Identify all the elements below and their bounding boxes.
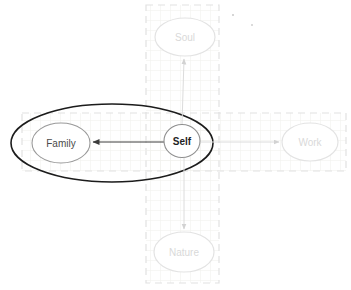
scan-speck <box>251 24 253 26</box>
node-nature[interactable]: Nature <box>154 232 214 272</box>
diagram-canvas: Soul Work Nature Family Self <box>0 0 351 290</box>
scan-speck <box>232 14 234 16</box>
node-family[interactable]: Family <box>32 123 90 163</box>
nature-label: Nature <box>169 247 199 258</box>
node-self[interactable]: Self <box>164 125 200 158</box>
node-work[interactable]: Work <box>282 123 338 161</box>
node-soul[interactable]: Soul <box>155 18 215 56</box>
family-label: Family <box>46 138 75 149</box>
relationship-diagram: Soul Work Nature Family Self <box>0 0 351 290</box>
self-label: Self <box>173 136 192 147</box>
soul-label: Soul <box>175 32 195 43</box>
work-label: Work <box>298 137 322 148</box>
